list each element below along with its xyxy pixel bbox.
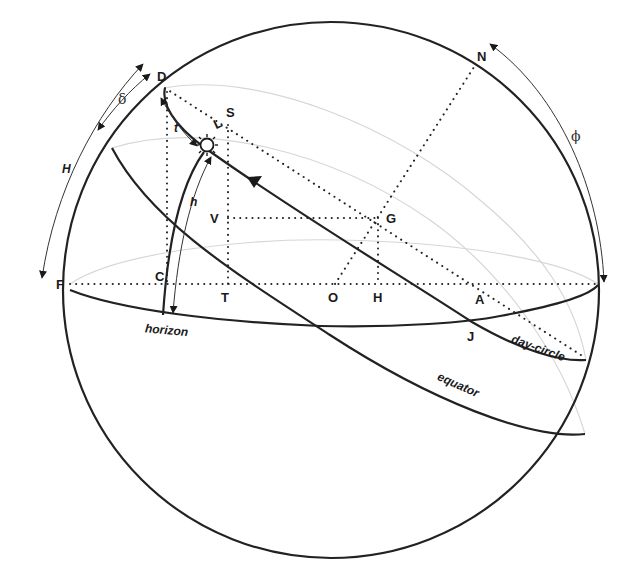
line-O-N xyxy=(335,67,474,284)
label-equator: equator xyxy=(435,369,482,400)
label-A: A xyxy=(475,292,485,307)
label-S: S xyxy=(226,105,235,120)
label-T: T xyxy=(221,290,229,305)
H-angle-arrow xyxy=(42,64,143,278)
label-H-angle: H xyxy=(62,162,71,176)
label-H: H xyxy=(373,290,382,305)
equator-back-arc xyxy=(112,138,585,434)
label-horizon: horizon xyxy=(144,321,188,339)
angle-arrows xyxy=(42,44,604,313)
label-F: F xyxy=(56,277,64,292)
label-V: V xyxy=(210,211,219,226)
label-h: h xyxy=(190,195,197,209)
horizon-back-arc xyxy=(70,240,598,284)
label-C: C xyxy=(155,269,165,284)
back-side-curves xyxy=(70,85,598,434)
label-D: D xyxy=(157,69,166,84)
celestial-sphere-diagram: D N S L V G F C T O H A J H δ ϕ t h hori… xyxy=(0,0,643,572)
label-day-circle: day-circle xyxy=(510,332,568,364)
equator-curve xyxy=(112,148,585,435)
label-G: G xyxy=(386,211,396,226)
label-J: J xyxy=(467,329,474,344)
phi-angle-arrow xyxy=(490,44,604,282)
label-L: L xyxy=(211,115,225,132)
h-angle-arrow xyxy=(173,157,211,313)
label-delta: δ xyxy=(118,91,126,107)
curve-labels: horizon day-circle equator xyxy=(144,321,567,400)
label-N: N xyxy=(477,49,486,64)
label-phi: ϕ xyxy=(571,128,581,144)
label-O: O xyxy=(328,290,338,305)
